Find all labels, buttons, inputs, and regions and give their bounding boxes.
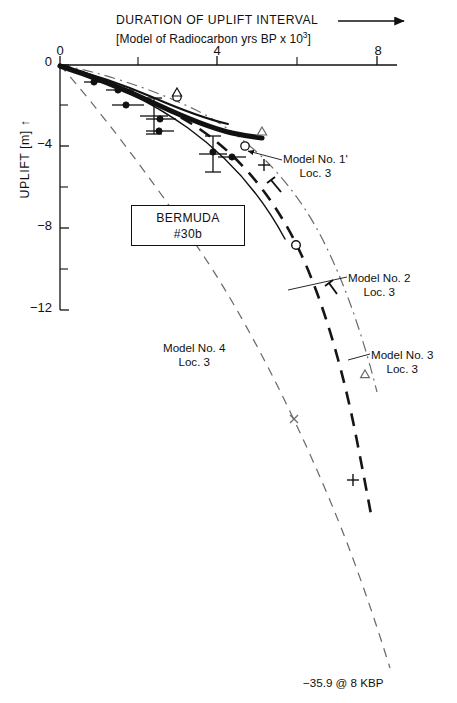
bermuda-sample-id: #30b: [174, 227, 203, 241]
special-markers-group: [172, 88, 369, 486]
data-point: [112, 102, 144, 108]
annotation-model-2-line1: Model No. 2: [348, 271, 411, 285]
y-tick-label-0: 0: [18, 54, 52, 69]
annotation-model-1-line2: Loc. 3: [283, 166, 348, 180]
annotation-model-3-line2: Loc. 3: [371, 362, 434, 376]
bermuda-legend-box: BERMUDA #30b: [131, 205, 245, 246]
curve-observed-heavy: [60, 66, 262, 138]
annotation-model-3: Model No. 3 Loc. 3: [371, 348, 434, 375]
x-tick-label-8: 8: [366, 43, 390, 58]
open-circle-marker: [241, 142, 249, 150]
annotation-model-1: Model No. 1' Loc. 3: [283, 152, 348, 179]
data-points-group: [84, 79, 246, 172]
subtitle-suffix: ]: [308, 32, 311, 46]
plus-marker: [347, 474, 359, 486]
data-point: [199, 136, 227, 172]
open-triangle-marker: [361, 370, 370, 378]
annotation-model-4: Model No. 4 Loc. 3: [163, 341, 226, 368]
y-axis-label-text: UPLIFT [m]: [18, 130, 32, 198]
y-axis: [60, 65, 69, 310]
y-tick-label-m12: −12: [18, 300, 52, 315]
annotation-endpoint-value: −35.9 @ 8 KBP: [303, 676, 383, 689]
uplift-curve-figure: DURATION OF UPLIFT INTERVAL [Model of Ra…: [0, 0, 457, 703]
callout-leaders: [248, 151, 370, 360]
data-point: [140, 98, 168, 134]
plus-marker: [258, 159, 270, 171]
open-triangle-marker: [257, 127, 266, 135]
annotation-model-4-line2: Loc. 3: [163, 355, 226, 369]
annotation-model-3-line1: Model No. 3: [371, 348, 434, 362]
x-cross-marker: [290, 415, 298, 423]
annotation-model-4-line1: Model No. 4: [163, 341, 226, 355]
y-axis-label: UPLIFT [m] ↑: [18, 94, 32, 224]
annotation-model-1-line1: Model No. 1': [283, 152, 348, 166]
data-point: [218, 154, 246, 160]
annotation-model-2: Model No. 2 Loc. 3: [348, 271, 411, 298]
open-triangle-marker: [172, 88, 181, 96]
annotation-model-2-line2: Loc. 3: [348, 285, 411, 299]
tick-bar-marker: [267, 177, 281, 192]
x-tick-label-4: 4: [205, 43, 229, 58]
curve-model-2: [60, 65, 372, 520]
tick-bar-marker: [325, 280, 337, 294]
bermuda-label: BERMUDA: [156, 211, 219, 225]
data-point: [146, 128, 174, 134]
chart-title: DURATION OF UPLIFT INTERVAL: [116, 14, 318, 28]
model-1-endpoint-marker: [292, 241, 301, 250]
